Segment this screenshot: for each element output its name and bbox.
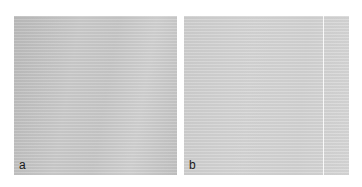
image-panel-b: b <box>184 16 349 175</box>
panel-label-b: b <box>189 159 196 171</box>
panel-label-a: a <box>19 159 26 171</box>
image-panel-a: a <box>14 16 177 175</box>
vertical-artifact-line <box>323 16 324 175</box>
